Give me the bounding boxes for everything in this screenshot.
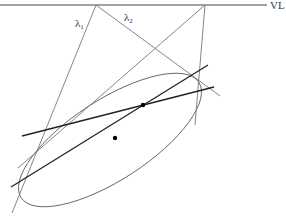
polar-line-b (22, 87, 214, 136)
pole-point (141, 103, 145, 107)
lambda2-subscript: 2 (129, 17, 133, 25)
diagram-canvas: VL λ1 λ2 (0, 0, 286, 217)
right-tangent-line-b (195, 5, 205, 125)
right-tangent-line-a (18, 5, 205, 168)
polar-line-a (11, 65, 208, 187)
lambda1-label: λ1 (75, 17, 84, 31)
lambda2-label: λ2 (124, 11, 133, 25)
center-point (113, 136, 117, 140)
lambda1-line (12, 5, 96, 213)
lambda1-subscript: 1 (80, 23, 84, 31)
vanishing-line-label: VL (270, 0, 285, 11)
